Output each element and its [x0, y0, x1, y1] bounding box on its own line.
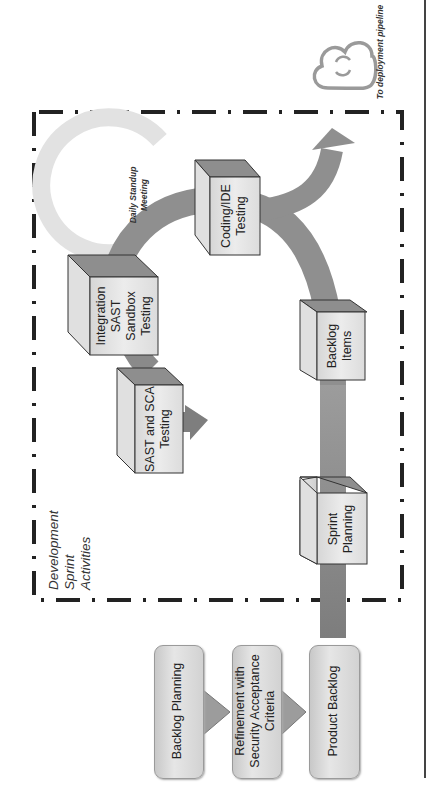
flow-to-deployment	[260, 150, 332, 210]
container-label: Development Sprint Activities	[46, 490, 94, 590]
step-product-backlog-label: Product Backlog	[326, 651, 342, 771]
diagram-graphics	[0, 0, 432, 812]
cube-integration-sast-label: Integration SAST Sandbox Testing	[94, 271, 154, 361]
deployment-arrow-head	[312, 128, 355, 150]
cloud-sync-icon	[314, 43, 376, 89]
step-backlog-planning-label: Backlog Planning	[170, 651, 186, 771]
chevron-arrow-2	[281, 690, 306, 735]
cube-backlog-items-label: Backlog Items	[325, 311, 357, 381]
cube-sast-sca-label: SAST and SCA Testing	[143, 384, 175, 474]
step-refinement-label: Refinement with Security Acceptance Crit…	[233, 651, 279, 771]
chevron-arrow-1	[203, 690, 230, 735]
sca-output-arrow	[180, 405, 208, 440]
deployment-label: To deployment pipeline	[374, 2, 386, 102]
cube-coding-ide-label: Coding/IDE Testing	[219, 171, 251, 261]
cube-sprint-planning-label: Sprint Planning	[326, 489, 358, 569]
standup-label: Daily Standup Meeting	[128, 157, 152, 233]
